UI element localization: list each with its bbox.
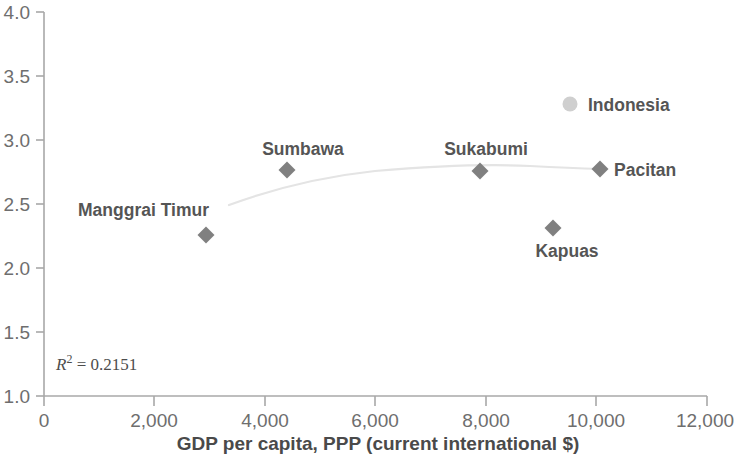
r-squared-value: 0.2151 xyxy=(90,355,137,374)
x-tick-label-12000: 12,000 xyxy=(676,410,734,431)
data-point-sumbawa[interactable] xyxy=(279,162,296,179)
y-tick-labels: 4.0 3.5 3.0 2.5 2.0 1.5 1.0 xyxy=(4,2,30,407)
y-tick-label-1.0: 1.0 xyxy=(4,386,30,407)
r-squared-symbol: R xyxy=(55,355,67,374)
y-tick-label-2.5: 2.5 xyxy=(4,194,30,215)
chart-canvas: 4.0 3.5 3.0 2.5 2.0 1.5 1.0 0 2,000 4,00… xyxy=(0,0,736,456)
y-tick-label-2.0: 2.0 xyxy=(4,258,30,279)
x-tick-label-8000: 8,000 xyxy=(462,410,510,431)
label-indonesia: Indonesia xyxy=(588,95,670,115)
label-pacitan: Pacitan xyxy=(614,160,676,180)
r-squared-equals: = xyxy=(72,355,90,374)
r-squared-text: R2 = 0.2151 xyxy=(55,352,137,374)
diamond-marker-icon xyxy=(592,161,609,178)
label-sumbawa: Sumbawa xyxy=(262,139,344,159)
x-axis-title: GDP per capita, PPP (current internation… xyxy=(177,433,580,454)
y-tick-label-3.0: 3.0 xyxy=(4,130,30,151)
x-tick-label-10000: 10,000 xyxy=(567,410,625,431)
label-kapuas: Kapuas xyxy=(535,241,598,261)
data-point-pacitan[interactable] xyxy=(592,161,609,178)
data-point-indonesia[interactable] xyxy=(563,97,578,112)
data-point-kapuas[interactable] xyxy=(545,220,562,237)
label-sukabumi: Sukabumi xyxy=(444,139,528,159)
diamond-marker-icon xyxy=(279,162,296,179)
x-tick-label-4000: 4,000 xyxy=(241,410,289,431)
data-point-labels: Manggrai Timur Sumbawa Sukabumi Kapuas P… xyxy=(78,95,676,261)
x-tick-label-0: 0 xyxy=(39,410,50,431)
circle-marker-icon xyxy=(563,97,578,112)
y-tick-label-4.0: 4.0 xyxy=(4,2,30,23)
r-squared-annotation: R2 = 0.2151 xyxy=(55,352,137,374)
y-tick-label-3.5: 3.5 xyxy=(4,66,30,87)
diamond-marker-icon xyxy=(198,227,215,244)
y-axis-ticks xyxy=(36,12,44,396)
x-tick-labels: 0 2,000 4,000 6,000 8,000 10,000 12,000 xyxy=(39,410,734,431)
label-manggrai-timur: Manggrai Timur xyxy=(78,200,209,220)
x-axis-ticks xyxy=(44,396,707,406)
x-tick-label-6000: 6,000 xyxy=(351,410,399,431)
data-point-manggrai-timur[interactable] xyxy=(198,227,215,244)
data-points xyxy=(198,97,609,244)
x-tick-label-2000: 2,000 xyxy=(130,410,178,431)
diamond-marker-icon xyxy=(545,220,562,237)
y-tick-label-1.5: 1.5 xyxy=(4,322,30,343)
scatter-chart: 4.0 3.5 3.0 2.5 2.0 1.5 1.0 0 2,000 4,00… xyxy=(0,0,736,456)
